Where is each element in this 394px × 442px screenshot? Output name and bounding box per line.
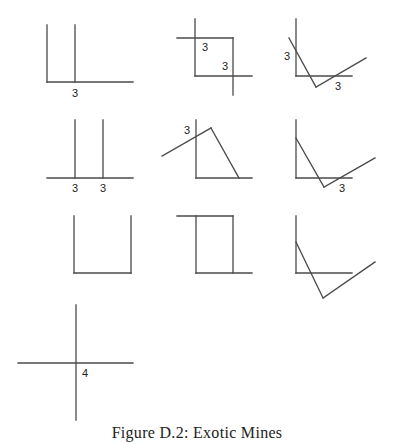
line-segment <box>211 128 239 178</box>
mine-figure-1: 3 <box>47 25 133 99</box>
number-label: 3 <box>72 182 78 194</box>
number-label: 3 <box>72 87 78 99</box>
line-segment <box>323 262 375 298</box>
line-segment <box>324 158 375 187</box>
mine-figure-3: 33 <box>284 19 366 92</box>
number-label: 3 <box>202 41 208 53</box>
mine-figure-7 <box>74 216 131 273</box>
mine-figure-2: 33 <box>177 19 252 95</box>
line-segment <box>296 242 323 298</box>
number-label: 3 <box>184 124 190 136</box>
number-label: 4 <box>82 367 88 379</box>
number-label: 3 <box>335 80 341 92</box>
mine-figure-8 <box>177 216 252 273</box>
number-label: 3 <box>339 182 345 194</box>
number-label: 3 <box>222 60 228 72</box>
mine-figure-9 <box>296 216 375 298</box>
figure-caption: Figure D.2: Exotic Mines <box>0 424 394 442</box>
line-segment <box>289 38 316 87</box>
mine-figure-10: 4 <box>18 305 133 420</box>
number-label: 3 <box>100 182 106 194</box>
line-segment <box>296 138 324 187</box>
mine-figure-4: 33 <box>47 120 133 194</box>
number-label: 3 <box>284 50 290 62</box>
mine-figure-5: 3 <box>162 120 252 178</box>
mine-figure-6: 3 <box>296 120 375 194</box>
